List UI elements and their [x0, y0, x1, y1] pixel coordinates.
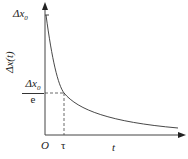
- decay-diagram: Δx0 Δx(t) Δx0 e O τ t: [0, 0, 188, 159]
- decay-curve: [46, 15, 178, 128]
- origin-label: O: [41, 140, 49, 151]
- x-axis-label: t: [112, 142, 115, 153]
- y-top-label: Δx0: [13, 8, 28, 22]
- tau-label: τ: [61, 140, 65, 151]
- y-axis-label: Δx(t): [4, 51, 15, 73]
- y-mid-label: Δx0 e: [22, 78, 44, 105]
